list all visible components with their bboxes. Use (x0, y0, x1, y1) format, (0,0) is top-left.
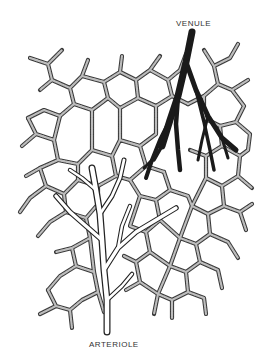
capillary-bed-diagram: VENULE ARTERIOLE (0, 0, 268, 361)
arteriole-label: ARTERIOLE (89, 340, 139, 349)
capillary-network-illustration (0, 0, 268, 361)
venule-label: VENULE (176, 19, 211, 28)
capillary-network (20, 44, 252, 328)
